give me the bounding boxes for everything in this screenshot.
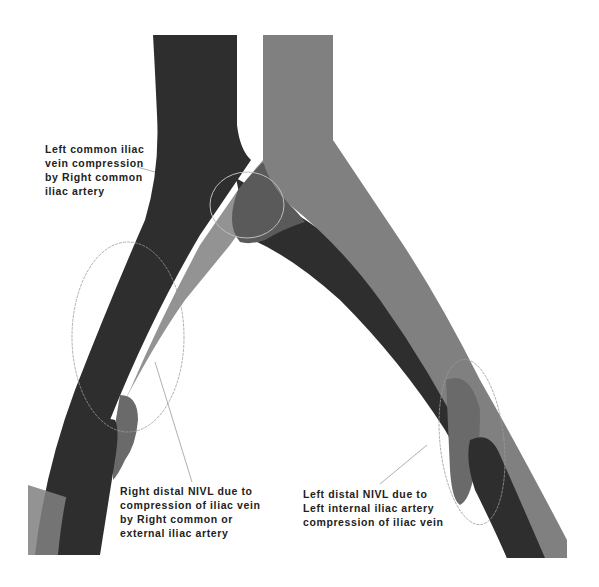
annotation-line: by Right common — [45, 170, 144, 184]
annotation-left-distal-nivl: Left distal NIVL due to Left internal il… — [303, 487, 443, 529]
annotation-line: by Right common or — [120, 512, 260, 526]
annotation-right-distal-nivl: Right distal NIVL due to compression of … — [120, 484, 260, 540]
vein-trunk-right-iliac — [35, 35, 251, 555]
annotation-line: Left common iliac — [45, 142, 144, 156]
iliac-diagram — [0, 0, 599, 587]
annotation-line: external iliac artery — [120, 526, 260, 540]
annotation-line: vein compression — [45, 156, 144, 170]
annotation-line: compression of iliac vein — [303, 515, 443, 529]
leader-line-left-distal — [380, 445, 427, 484]
artery-trunk-left-iliac — [263, 35, 567, 558]
annotation-line: Left distal NIVL due to — [303, 487, 443, 501]
leader-line-right-distal — [155, 362, 192, 482]
annotation-line: Right distal NIVL due to — [120, 484, 260, 498]
annotation-line: Left internal iliac artery — [303, 501, 443, 515]
annotation-line: iliac artery — [45, 184, 144, 198]
annotation-line: compression of iliac vein — [120, 498, 260, 512]
annotation-left-common-iliac-compression: Left common iliac vein compression by Ri… — [45, 142, 144, 198]
